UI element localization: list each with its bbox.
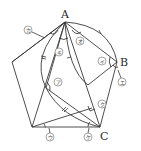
svg-text:エ: エ (120, 79, 125, 85)
tick-arc-ad (67, 57, 71, 58)
svg-text:キ: キ (57, 49, 62, 55)
angle-label-ka: カ (24, 26, 32, 34)
svg-text:カ: カ (26, 27, 31, 34)
angle-label-e: エ (118, 78, 126, 86)
svg-text:オ: オ (78, 38, 83, 44)
line-a-left (12, 22, 65, 62)
angle-label-ku: ク (98, 100, 106, 108)
point-label-b: B (120, 56, 128, 69)
point-label-a: A (60, 8, 70, 21)
angle-arc-i (109, 57, 111, 67)
svg-text:ア: ア (56, 79, 61, 86)
angle-label-i: イ (98, 57, 106, 65)
leader-e (118, 70, 121, 78)
leader-ka (32, 32, 45, 38)
svg-text:ウ: ウ (48, 134, 53, 140)
leader-ke (88, 128, 89, 133)
point-label-c: C (100, 130, 108, 143)
angle-label-o: オ (76, 37, 84, 45)
geometry-figure: A B C カ キ オ イ エ ア ク ウ ケ (0, 0, 141, 151)
svg-text:イ: イ (100, 58, 105, 64)
angle-label-ki: キ (55, 48, 63, 56)
line-d-b (88, 62, 117, 85)
angle-label-ke: ケ (84, 133, 92, 141)
angle-label-a: ア (54, 78, 62, 86)
angle-label-u: ウ (46, 133, 54, 141)
tick-a-arcpoint-1 (41, 56, 46, 57)
svg-text:ケ: ケ (86, 134, 91, 140)
svg-text:ク: ク (100, 101, 105, 108)
leader-u (49, 128, 50, 133)
line-arcpoint-c (46, 88, 100, 127)
